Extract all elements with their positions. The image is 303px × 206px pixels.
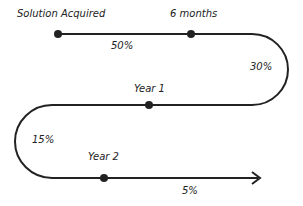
- milestone-label-year-1: Year 1: [134, 83, 165, 94]
- segment-label-50: 50%: [111, 40, 133, 51]
- milestone-label-6-months: 6 months: [170, 8, 217, 19]
- milestone-dot-6-months: [187, 30, 195, 38]
- segment-label-15: 15%: [32, 134, 54, 145]
- timeline-path: [0, 0, 303, 206]
- milestone-dot-start: [54, 30, 62, 38]
- milestone-dot-year-2: [100, 174, 108, 182]
- segment-label-30: 30%: [250, 61, 272, 72]
- milestone-dot-year-1: [145, 101, 153, 109]
- milestone-label-year-2: Year 2: [88, 151, 119, 162]
- milestone-label-solution-acquired: Solution Acquired: [17, 8, 105, 19]
- segment-label-5: 5%: [182, 185, 198, 196]
- timeline-diagram: Solution Acquired 6 months Year 1 Year 2…: [0, 0, 303, 206]
